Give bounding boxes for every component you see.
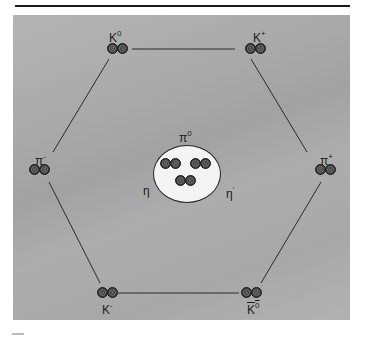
quark-s: s (107, 287, 118, 298)
kplus-label: K+ (253, 29, 266, 44)
center-pair-dd: d d (160, 158, 180, 169)
kminus-label: K- (102, 301, 113, 316)
kminus-quarks: u s (97, 287, 117, 298)
kplus-quarks: s u (245, 43, 265, 54)
quark-d-bar: d (251, 287, 262, 298)
quark-s-bar: s (117, 43, 128, 54)
footer-mark (12, 333, 24, 335)
pi0-label: π0 (179, 129, 192, 144)
piplus-quarks: d u (315, 164, 335, 175)
eta-label: η (143, 185, 150, 197)
edge-kplus-piplus (251, 59, 307, 152)
quark-d-bar: d (170, 158, 181, 169)
eta-prime-label: η' (226, 185, 234, 200)
quark-u: u (325, 164, 336, 175)
quark-s-bar: s (185, 175, 196, 186)
top-rule (15, 5, 350, 7)
quark-u-bar: u (200, 158, 211, 169)
piminus-quarks: u d (29, 164, 49, 175)
meson-octet-diagram: K0 d s K+ s u π- u d π+ d u u s K- s d K… (13, 15, 350, 320)
k0-label: K0 (109, 29, 121, 44)
center-multiplet-circle: d d u u s s (153, 145, 221, 203)
k0bar-quarks: s d (241, 287, 261, 298)
center-pair-ss: s s (175, 175, 195, 186)
edge-k0-piminus (53, 59, 109, 152)
edge-piplus-k0bar (261, 182, 321, 283)
k0bar-label: K0 (247, 301, 259, 316)
k0-quarks: d s (107, 43, 127, 54)
quark-u: u (255, 43, 266, 54)
quark-d: d (39, 164, 50, 175)
edge-piminus-kminus (49, 182, 100, 283)
center-pair-uu: u u (190, 158, 210, 169)
